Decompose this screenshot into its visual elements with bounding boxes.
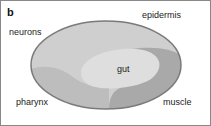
- label-gut: gut: [117, 64, 130, 74]
- diagram-frame: b epidermis neurons gut pharynx muscle: [0, 0, 211, 126]
- label-neurons: neurons: [9, 27, 42, 37]
- panel-label: b: [7, 6, 14, 18]
- label-pharynx: pharynx: [16, 97, 48, 107]
- label-muscle: muscle: [163, 97, 192, 107]
- label-epidermis: epidermis: [142, 10, 181, 20]
